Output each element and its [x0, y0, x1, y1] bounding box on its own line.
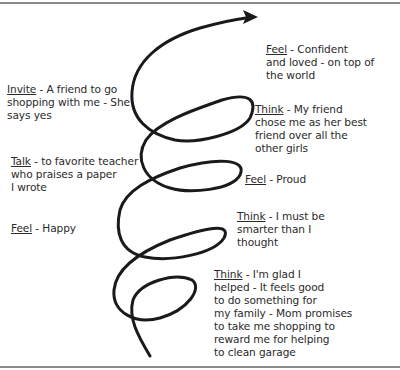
label-text: helped - It feels good [214, 281, 324, 293]
keyword-think: Think [255, 103, 283, 115]
label-text: I wrote [11, 181, 47, 193]
label-text: and loved - on top of [266, 56, 374, 68]
label-feel-proud: Feel - Proud [245, 173, 306, 186]
label-text: - My friend [283, 103, 342, 115]
keyword-feel: Feel [11, 222, 32, 234]
label-text: thought [237, 236, 278, 248]
keyword-talk: Talk [11, 155, 31, 167]
label-text: other girls [255, 142, 308, 154]
label-text: smarter than I [237, 223, 311, 235]
keyword-think: Think [214, 268, 242, 280]
label-think-smarter: Think - I must be smarter than I thought [237, 210, 325, 249]
keyword-feel: Feel [266, 43, 287, 55]
label-feel-happy: Feel - Happy [11, 222, 76, 235]
label-text: the world [266, 69, 315, 81]
label-text: to take me shopping to [214, 320, 335, 332]
label-think-friend: Think - My friend chose me as her best f… [255, 103, 367, 155]
label-text: chose me as her best [255, 116, 367, 128]
label-text: friend over all the [255, 129, 348, 141]
label-text: who praises a paper [11, 168, 116, 180]
label-text: - I'm glad I [242, 268, 300, 280]
label-text: reward me for helping [214, 333, 329, 345]
label-think-glad: Think - I'm glad I helped - It feels goo… [214, 268, 352, 359]
label-text: my family - Mom promises [214, 307, 352, 319]
label-text: to do something for [214, 294, 317, 306]
label-text: - Happy [32, 222, 76, 234]
keyword-invite: Invite [7, 83, 36, 95]
label-feel-confident: Feel - Confident and loved - on top of t… [266, 43, 374, 82]
keyword-think: Think [237, 210, 265, 222]
label-text: - A friend to go [36, 83, 117, 95]
label-text: - I must be [265, 210, 324, 222]
label-text: - Confident [287, 43, 348, 55]
label-text: to clean garage [214, 346, 296, 358]
label-text: - to favorite teacher [31, 155, 138, 167]
label-text: shopping with me - She [7, 96, 130, 108]
label-talk: Talk - to favorite teacher who praises a… [11, 155, 138, 194]
label-text: says yes [7, 109, 52, 121]
label-text: - Proud [266, 173, 306, 185]
label-invite: Invite - A friend to go shopping with me… [7, 83, 130, 122]
keyword-feel: Feel [245, 173, 266, 185]
